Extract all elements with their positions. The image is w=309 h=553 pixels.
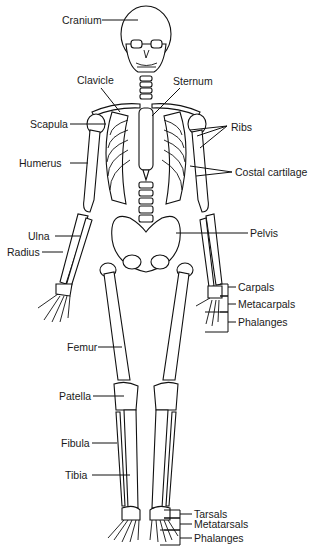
- skeleton-diagram: Cranium Clavicle Sternum Scapula Ribs Hu…: [0, 0, 309, 553]
- label-ribs: Ribs: [231, 121, 252, 133]
- label-cranium: Cranium: [62, 14, 102, 26]
- label-costal-cartilage: Costal cartilage: [235, 166, 307, 178]
- label-phalanges-hand: Phalanges: [238, 316, 288, 328]
- label-humerus: Humerus: [19, 157, 62, 169]
- label-metacarpals: Metacarpals: [238, 298, 295, 310]
- label-ulna: Ulna: [28, 230, 50, 242]
- label-pelvis: Pelvis: [250, 227, 278, 239]
- label-sternum: Sternum: [173, 75, 213, 87]
- label-metatarsals: Metatarsals: [194, 518, 248, 530]
- label-clavicle: Clavicle: [77, 74, 114, 86]
- label-carpals: Carpals: [238, 281, 274, 293]
- neck: [140, 76, 152, 99]
- label-phalanges-foot: Phalanges: [194, 532, 244, 544]
- label-patella: Patella: [59, 390, 91, 402]
- skeleton-illustration: [0, 0, 309, 553]
- label-fibula: Fibula: [61, 437, 90, 449]
- label-femur: Femur: [67, 341, 97, 353]
- skull: [121, 6, 171, 72]
- label-scapula: Scapula: [30, 118, 68, 130]
- lumbar-spine: [139, 182, 153, 222]
- label-radius: Radius: [7, 246, 40, 258]
- label-tibia: Tibia: [65, 469, 87, 481]
